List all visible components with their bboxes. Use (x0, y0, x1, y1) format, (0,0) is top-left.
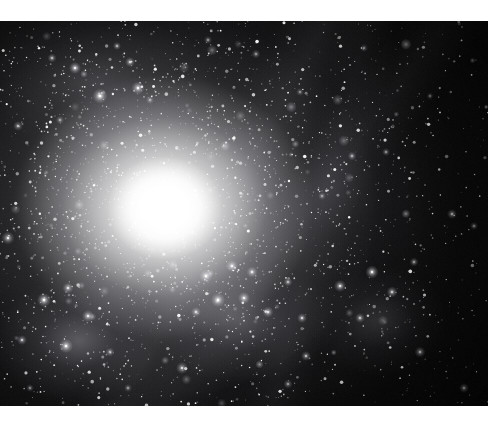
page-root (0, 0, 504, 422)
starfield-canvas (0, 21, 488, 406)
page-margin-right (488, 0, 504, 422)
astronomy-image (0, 21, 488, 406)
page-margin-top (0, 0, 504, 21)
page-margin-bottom (0, 406, 504, 422)
